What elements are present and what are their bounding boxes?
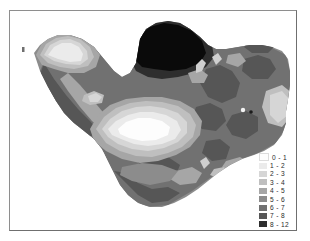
legend-label-3-4: 3 - 4 <box>270 179 285 186</box>
plot-frame: 0 - 1 1 - 2 2 - 3 3 - 4 4 - 5 5 - 6 <box>9 10 297 231</box>
map-speck-light <box>241 108 245 112</box>
legend-swatch-5-6 <box>259 196 267 202</box>
legend-row: 6 - 7 <box>259 203 297 211</box>
legend-swatch-2-3 <box>259 171 267 177</box>
legend-row: 12 - 13 <box>259 229 297 231</box>
legend-row: 0 - 1 <box>259 153 297 161</box>
legend-row: 5 - 6 <box>259 195 297 203</box>
legend-label-0-1: 0 - 1 <box>272 154 287 161</box>
legend-swatch-3-4 <box>259 179 267 185</box>
figure-container: 0 - 1 1 - 2 2 - 3 3 - 4 4 - 5 5 - 6 <box>0 0 310 241</box>
legend-label-7-8: 7 - 8 <box>270 212 285 219</box>
map-classes <box>10 11 296 230</box>
legend-label-8-12: 8 - 12 <box>270 221 289 228</box>
legend-label-5-6: 5 - 6 <box>270 196 285 203</box>
legend-swatch-7-8 <box>259 213 267 219</box>
choropleth-map <box>10 11 296 230</box>
map-island-marker <box>22 47 25 52</box>
legend-row: 3 - 4 <box>259 178 297 186</box>
legend-label-12-13: 12 - 13 <box>270 229 293 231</box>
legend-row: 4 - 5 <box>259 187 297 195</box>
map-speck-dark <box>249 110 253 114</box>
legend-label-2-3: 2 - 3 <box>270 170 285 177</box>
legend-row: 8 - 12 <box>259 220 297 228</box>
legend-swatch-8-12 <box>259 221 267 227</box>
legend-label-4-5: 4 - 5 <box>270 187 285 194</box>
legend-swatch-4-5 <box>259 188 267 194</box>
legend-label-6-7: 6 - 7 <box>270 204 285 211</box>
legend-label-1-2: 1 - 2 <box>270 162 285 169</box>
legend-row: 1 - 2 <box>259 161 297 169</box>
class-legend: 0 - 1 1 - 2 2 - 3 3 - 4 4 - 5 5 - 6 <box>259 153 297 231</box>
legend-swatch-1-2 <box>259 163 267 169</box>
legend-row: 2 - 3 <box>259 170 297 178</box>
legend-swatch-12-13 <box>259 230 267 231</box>
legend-swatch-0-1 <box>259 153 269 161</box>
map-class-12-13 <box>132 23 206 71</box>
legend-row: 7 - 8 <box>259 212 297 220</box>
legend-swatch-6-7 <box>259 205 267 211</box>
